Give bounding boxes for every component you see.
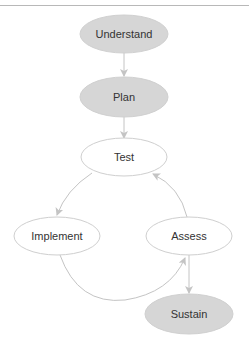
node-assess: Assess [146,217,232,255]
edge-test-implement [57,173,92,215]
flow-diagram: Understand Plan Test Implement Assess Su… [0,0,249,348]
node-understand: Understand [80,15,168,53]
node-label: Understand [96,28,153,40]
node-label: Test [114,151,134,163]
node-label: Sustain [171,308,208,320]
node-implement: Implement [14,217,100,255]
node-plan: Plan [80,77,168,117]
edge-implement-assess [60,255,185,300]
node-label: Plan [113,91,135,103]
node-test: Test [81,138,167,176]
node-label: Assess [171,230,207,242]
node-sustain: Sustain [145,294,233,334]
node-label: Implement [31,230,82,242]
edge-assess-test [153,174,187,217]
